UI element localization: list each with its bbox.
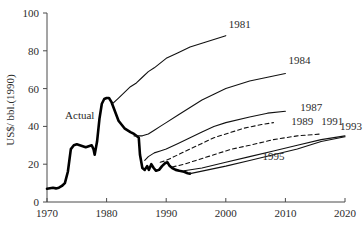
y-tick-label: 60 <box>28 83 40 95</box>
y-tick-label: 20 <box>28 158 40 170</box>
series-label-1981: 1981 <box>229 18 251 30</box>
annotation-actual: Actual <box>65 109 94 121</box>
series-label-1993: 1993 <box>340 120 363 132</box>
y-tick-label: 100 <box>23 7 40 19</box>
series-line-1991 <box>172 134 321 167</box>
series-label-1995: 1995 <box>262 150 285 162</box>
y-axis-ticks: 020406080100 <box>23 7 48 208</box>
series-labels-layer: 1981198419871989199119931995 <box>229 18 363 162</box>
series-label-1989: 1989 <box>291 115 314 127</box>
series-line-1989 <box>160 123 273 163</box>
series-line-1984 <box>134 73 285 135</box>
series-line-1981 <box>113 36 226 104</box>
y-tick-label: 40 <box>28 120 40 132</box>
x-axis-ticks: 197019801990200020102020 <box>36 198 357 219</box>
x-tick-label: 1980 <box>96 207 119 219</box>
y-axis-title: US$/ bbl.(1990) <box>4 74 17 146</box>
oil-price-projection-chart: US$/ bbl.(1990) 020406080100 19701980199… <box>0 0 364 229</box>
series-label-1987: 1987 <box>300 101 323 113</box>
x-tick-label: 2010 <box>274 207 297 219</box>
annotations-layer: Actual <box>65 109 94 121</box>
y-tick-label: 80 <box>28 45 40 57</box>
x-tick-label: 1990 <box>155 207 178 219</box>
x-tick-label: 1970 <box>36 207 59 219</box>
chart-canvas: US$/ bbl.(1990) 020406080100 19701980199… <box>0 0 364 229</box>
x-tick-label: 2020 <box>334 207 357 219</box>
series-label-1984: 1984 <box>288 54 311 66</box>
x-tick-label: 2000 <box>215 207 238 219</box>
